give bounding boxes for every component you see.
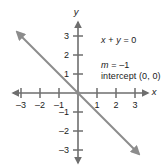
coordinate-plane-svg: –3 –2 –1 1 2 3 3 2 1 –1 –2 –3 x y (0, 0, 165, 168)
y-tick-label: 2 (64, 50, 69, 60)
y-tick-label: 1 (64, 69, 69, 79)
y-tick-label: –3 (59, 145, 69, 155)
equation-rhs: = 0 (121, 35, 137, 45)
origin-point (76, 91, 80, 95)
intercept-annotation: intercept (0, 0) (101, 71, 161, 81)
x-tick-label: –3 (16, 100, 26, 110)
y-tick-label: 3 (64, 31, 69, 41)
slope-annotation: m = –1 (101, 60, 129, 70)
equation-annotation: x + y = 0 (101, 35, 136, 45)
y-axis-label: y (73, 6, 80, 17)
slope-m-symbol: m (101, 60, 109, 70)
x-tick-label: 1 (94, 100, 99, 110)
graph-figure: –3 –2 –1 1 2 3 3 2 1 –1 –2 –3 x y x + y … (0, 0, 165, 168)
x-tick-label: 2 (113, 100, 118, 110)
x-tick-label: –2 (35, 100, 45, 110)
equation-plus: + (106, 35, 117, 45)
slope-value: = –1 (109, 60, 130, 70)
x-axis-label: x (151, 86, 158, 97)
x-tick-label: 3 (132, 100, 137, 110)
y-tick-label: –2 (59, 126, 69, 136)
x-tick-labels: –3 –2 –1 1 2 3 (16, 100, 138, 110)
y-tick-label: –1 (59, 107, 69, 117)
